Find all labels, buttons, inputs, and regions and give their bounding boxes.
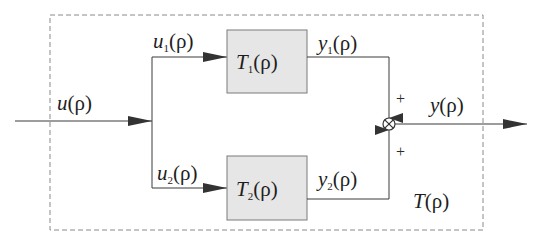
label-y2: y2(ρ) xyxy=(316,167,357,192)
label-u: u(ρ) xyxy=(57,91,92,115)
label-y: y(ρ) xyxy=(428,93,464,117)
label-t1: T1(ρ) xyxy=(236,50,278,75)
label-y1: y1(ρ) xyxy=(316,31,357,56)
parallel-system-diagram: + + u(ρ) u1(ρ) u2(ρ) T1(ρ) T2(ρ) y1(ρ) y… xyxy=(0,0,548,242)
summing-junction-icon xyxy=(383,118,395,130)
label-system-t: T(ρ) xyxy=(413,189,449,213)
sign-top: + xyxy=(396,90,405,107)
label-t2: T2(ρ) xyxy=(236,177,278,202)
label-u2: u2(ρ) xyxy=(157,161,197,186)
sign-bottom: + xyxy=(396,143,405,160)
y1-signal-line xyxy=(307,57,389,118)
label-u1: u1(ρ) xyxy=(153,29,193,54)
